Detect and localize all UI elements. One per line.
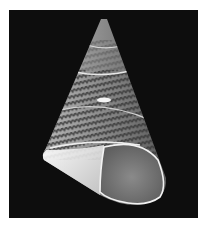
seashell-image bbox=[0, 0, 210, 227]
shell bbox=[40, 19, 170, 205]
